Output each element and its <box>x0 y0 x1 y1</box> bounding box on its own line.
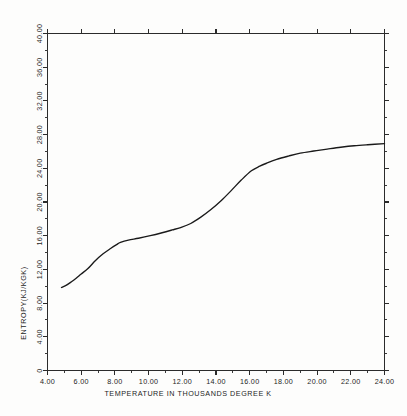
entropy-temperature-plot: 4.006.008.0010.0012.0014.0016.0018.0020.… <box>0 0 407 416</box>
entropy-curve <box>61 144 384 288</box>
x-tick-label: 18.00 <box>274 377 294 386</box>
y-tick-label: 28.00 <box>35 125 44 145</box>
x-tick-label: 12.00 <box>173 377 193 386</box>
y-tick-label: 32.00 <box>35 91 44 111</box>
x-tick-label: 22.00 <box>341 377 361 386</box>
y-tick-label: 0 <box>35 368 44 372</box>
y-tick-label: 40.00 <box>35 24 44 44</box>
x-axis-title: TEMPERATURE IN THOUSANDS DEGREE K <box>104 389 271 398</box>
y-axis-title: ENTROPY(KJ/KGK) <box>19 266 28 339</box>
x-tick-label: 4.00 <box>40 377 55 386</box>
x-tick-label: 8.00 <box>107 377 122 386</box>
x-tick-label: 14.00 <box>206 377 226 386</box>
entropy-data-line <box>61 144 384 288</box>
y-tick-label: 20.00 <box>35 192 44 212</box>
y-tick-label: 12.00 <box>35 260 44 280</box>
x-tick-label: 16.00 <box>240 377 260 386</box>
y-tick-label: 36.00 <box>35 57 44 77</box>
axis-ticks <box>43 29 389 375</box>
y-tick-label: 24.00 <box>35 159 44 179</box>
x-tick-label: 20.00 <box>307 377 327 386</box>
x-tick-label: 24.00 <box>375 377 395 386</box>
y-tick-label: 4.00 <box>35 329 44 344</box>
x-axis-tick-labels: 4.006.008.0010.0012.0014.0016.0018.0020.… <box>40 377 394 386</box>
y-tick-label: 8.00 <box>35 295 44 310</box>
x-tick-label: 6.00 <box>74 377 89 386</box>
y-axis-tick-labels: 04.008.0012.0016.0020.0024.0028.0032.003… <box>35 24 44 373</box>
y-tick-label: 16.00 <box>35 226 44 246</box>
chart-figure: 4.006.008.0010.0012.0014.0016.0018.0020.… <box>0 0 407 416</box>
plot-axes <box>48 34 385 371</box>
x-tick-label: 10.00 <box>139 377 159 386</box>
